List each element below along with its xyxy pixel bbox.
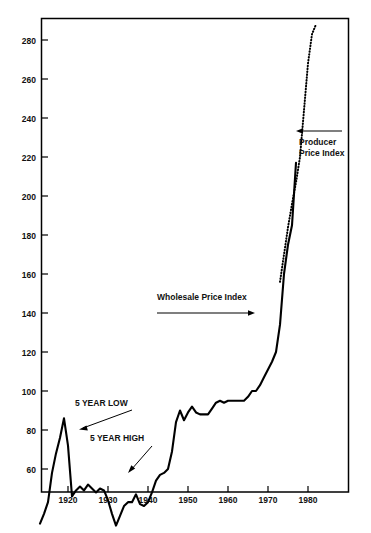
y-tick-160: 160 bbox=[22, 270, 36, 280]
x-tick-1980: 1980 bbox=[299, 495, 318, 505]
producer-price-index-label-line2: Price Index bbox=[299, 148, 345, 158]
y-tick-140: 140 bbox=[22, 309, 36, 319]
x-axis-labels: 1920 1930 1940 1950 1960 1970 1980 bbox=[59, 495, 318, 505]
five-year-high-annotation: 5 YEAR HIGH bbox=[90, 433, 152, 473]
arrow-head-right-icon bbox=[248, 310, 255, 316]
wholesale-price-index-line bbox=[40, 163, 296, 526]
y-tick-280: 280 bbox=[22, 36, 36, 46]
wholesale-price-index-label: Wholesale Price Index bbox=[157, 292, 247, 302]
y-tick-220: 220 bbox=[22, 153, 36, 163]
chart-container: 280 260 240 220 200 180 160 140 120 100 … bbox=[0, 0, 371, 533]
y-tick-260: 260 bbox=[22, 75, 36, 85]
five-year-low-label: 5 YEAR LOW bbox=[75, 398, 129, 408]
y-tick-100: 100 bbox=[22, 387, 36, 397]
arrow-head-left-icon bbox=[296, 128, 303, 134]
y-tick-120: 120 bbox=[22, 348, 36, 358]
y-tick-200: 200 bbox=[22, 192, 36, 202]
y-tick-80: 80 bbox=[27, 426, 37, 436]
arrow-head-pointer-low-icon bbox=[79, 426, 88, 431]
x-tick-1920: 1920 bbox=[59, 495, 78, 505]
y-axis-ticks bbox=[42, 40, 49, 469]
producer-price-index-annotation: Producer Price Index bbox=[296, 128, 345, 158]
five-year-high-label: 5 YEAR HIGH bbox=[90, 433, 144, 443]
y-tick-240: 240 bbox=[22, 114, 36, 124]
wholesale-price-index-annotation: Wholesale Price Index bbox=[157, 292, 255, 316]
y-tick-180: 180 bbox=[22, 231, 36, 241]
plot-frame bbox=[42, 19, 349, 493]
producer-price-index-label-line1: Producer bbox=[299, 137, 337, 147]
y-tick-60: 60 bbox=[27, 465, 37, 475]
x-tick-1960: 1960 bbox=[219, 495, 238, 505]
x-tick-1970: 1970 bbox=[259, 495, 278, 505]
five-year-low-annotation: 5 YEAR LOW bbox=[75, 398, 132, 430]
y-axis-labels: 280 260 240 220 200 180 160 140 120 100 … bbox=[22, 36, 36, 475]
price-index-chart: 280 260 240 220 200 180 160 140 120 100 … bbox=[0, 0, 371, 533]
x-tick-1950: 1950 bbox=[179, 495, 198, 505]
